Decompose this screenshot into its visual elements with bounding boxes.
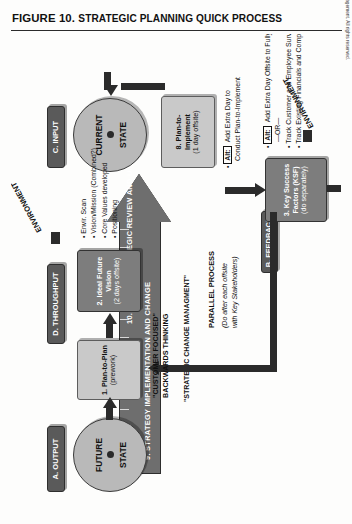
step-8-alt-text-1: Add Extra Day to: [224, 90, 231, 142]
step-2-bullets: • Envir. Scan • Vision/Mission (Combined…: [79, 148, 120, 238]
step-3-alt-tag: Alt:: [263, 126, 272, 143]
step-3-sub: (do separately): [300, 166, 308, 214]
step-2-bullet-2: • Core Values developed: [100, 148, 110, 238]
step-8-sub: (1 day offsite): [192, 110, 200, 153]
tag-output: A. OUTPUT: [47, 426, 65, 492]
step-8-alt-tag: Alt:: [223, 146, 232, 163]
arrow-step3-to-step45: [327, 185, 341, 192]
arrow-step8-to-current: [121, 83, 165, 90]
arrowhead-feedback-to-step3: [255, 184, 266, 198]
figure-title: FIGURE 10. STRATEGIC PLANNING QUICK PROC…: [12, 12, 342, 24]
arrow-feedback-to-step3: [225, 187, 259, 194]
step-2-sub: (2 days offsite): [113, 258, 121, 305]
arrow-step8-into-current: [104, 72, 111, 90]
environment-marker-top: [51, 232, 60, 244]
future-state-label-2: STATE: [118, 419, 128, 491]
title-divider: [11, 30, 342, 31]
copyright-notice: © 1992 Revised Centre for Strategic Mana…: [345, 0, 350, 60]
step-3-bullets: • Alt: Add Extra Day Offsite to Fully De…: [263, 34, 304, 148]
parallel-process-sub2: with Key Stakeholders): [231, 256, 238, 328]
step-3-alt-line: • Alt: Add Extra Day Offsite to Fully De…: [263, 34, 273, 148]
step-3-or: —OR—: [273, 34, 283, 148]
future-state-circle: FUTURE STATE: [73, 418, 147, 492]
future-state-label-1: FUTURE: [94, 419, 104, 491]
step-2-ideal-future-vision[interactable]: 2. Ideal Future Vision (2 days offsite): [77, 250, 141, 312]
strategic-change-management-label: "STRATEGIC CHANGE MANAGMENT": [183, 275, 190, 402]
parallel-process-sub1: (Do after each offsite: [221, 263, 228, 328]
tag-throughput: D. THROUGHPUT: [47, 264, 65, 344]
step-8-alt-line: • Alt: Add Extra Day to: [223, 77, 233, 168]
backwards-thinking-line1: "CUSTOMER FOCUSED": [151, 313, 160, 398]
future-state-center-dot: [107, 452, 114, 459]
parallel-frame-horizontal: [270, 212, 277, 372]
step-3-alt-text: Add Extra Day Offsite to Fully Develop K…: [264, 34, 271, 122]
diagram-rotated-layer: 9. STRATEGY IMPLEMENTATION AND CHANGE 10…: [11, 34, 341, 520]
step-1-sub: (prework): [109, 355, 117, 385]
step-8-bullets: • Alt: Add Extra Day to Conduct Plan-to-…: [223, 77, 244, 168]
parallel-frame-vertical: [159, 365, 277, 372]
step-2-bullet-0: • Envir. Scan: [79, 148, 89, 238]
arrow-step1-to-step2: [106, 322, 113, 338]
figure-page: FIGURE 10. STRATEGIC PLANNING QUICK PROC…: [0, 0, 352, 524]
step-2-bullet-3: • Positioning: [110, 148, 120, 238]
arrowhead-step1-to-step2: [103, 313, 117, 324]
current-state-center-dot: [107, 132, 114, 139]
step-8-plan-to-implement[interactable]: 8. Plan-to-Implement (1 day offsite): [161, 96, 215, 168]
diagram-canvas: 9. STRATEGY IMPLEMENTATION AND CHANGE 10…: [11, 34, 341, 520]
step-2-bullet-1: • Vision/Mission (Combined?): [89, 148, 99, 238]
arrow-future-to-step1: [106, 406, 113, 420]
backwards-thinking-line2: BACKWARDS THINKING: [161, 314, 170, 398]
environment-marker-bottom: [303, 130, 312, 142]
step-1-plan-to-plan[interactable]: 1. Plan-to-Plan (prework): [77, 340, 141, 400]
tag-input: C. INPUT: [47, 106, 65, 168]
figure-title-number: FIGURE 10.: [12, 12, 75, 24]
arrowhead-future-to-step1: [103, 397, 117, 408]
step-8-alt-text-2: Conduct Plan-to-Implement: [233, 77, 243, 168]
figure-title-text: STRATEGIC PLANNING QUICK PROCESS: [78, 13, 282, 24]
parallel-process-title: PARALLEL PROCESS: [207, 251, 216, 328]
step-8-title: 8. Plan-to-Implement: [175, 97, 192, 167]
environment-label-top: ENVIRONMENT: [11, 180, 43, 234]
